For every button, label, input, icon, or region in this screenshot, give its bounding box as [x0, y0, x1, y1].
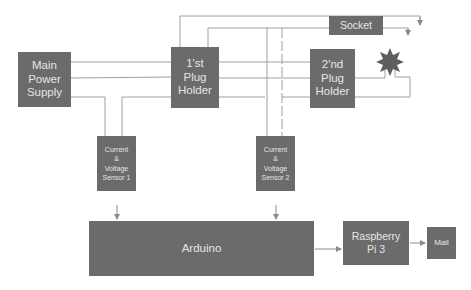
wire-plug1-sensor1 — [122, 97, 172, 136]
sensor-1-block: Current & Voltage Sensor 1 — [97, 136, 136, 191]
wire-plug1-socket-inner — [208, 28, 330, 47]
socket-block: Socket — [329, 16, 383, 35]
plug-holder-2-block: 2'nd Plug Holder — [310, 49, 355, 108]
wire-supply-plug1-b — [71, 77, 172, 78]
wire-supply-sensor1 — [71, 97, 105, 136]
plug-holder-1-block: 1'st Plug Holder — [171, 47, 219, 108]
wire-plug1-socket-top — [180, 16, 420, 47]
main-power-supply-block: Main Power Supply — [18, 52, 71, 107]
sensor-2-block: Current & Voltage Sensor 2 — [256, 136, 295, 191]
wire-socket-out — [383, 28, 408, 34]
mail-block: Mail — [427, 227, 456, 259]
wire-plug2-bulb-b — [355, 70, 410, 97]
arduino-block: Arduino — [89, 221, 314, 276]
bulb-burst-icon — [376, 48, 404, 76]
raspberry-pi-block: Raspberry Pi 3 — [343, 221, 409, 265]
